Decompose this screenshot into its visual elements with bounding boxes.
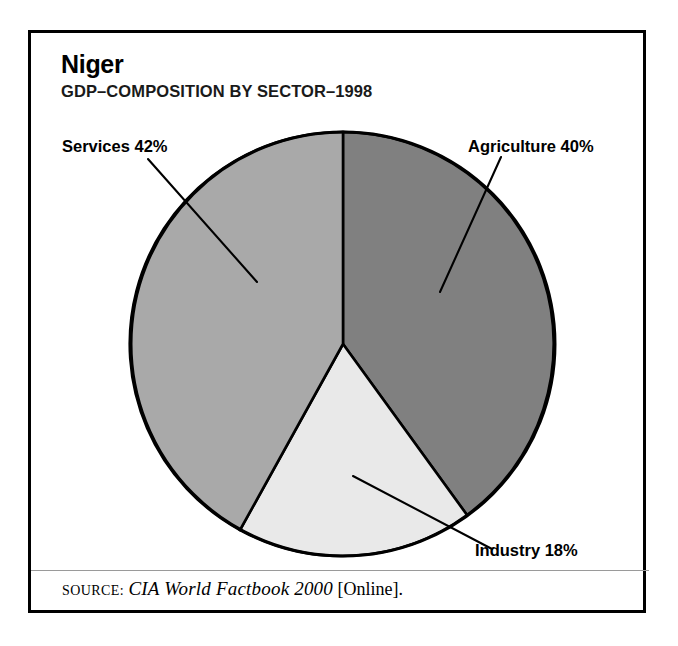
pie-label-agriculture: Agriculture 40%: [468, 137, 594, 156]
source-suffix: [Online].: [337, 579, 402, 599]
source-title: CIA World Factbook 2000: [128, 578, 333, 599]
pie-label-industry: Industry 18%: [475, 541, 578, 560]
source-divider: [31, 570, 649, 571]
source-note: SOURCE: CIA World Factbook 2000 [Online]…: [62, 578, 403, 600]
figure-frame: Niger GDP–COMPOSITION BY SECTOR–1998 Ser…: [28, 30, 646, 613]
figure-page: Niger GDP–COMPOSITION BY SECTOR–1998 Ser…: [0, 0, 678, 646]
pie-label-services: Services 42%: [62, 137, 168, 156]
pie-chart: [31, 33, 649, 616]
source-label: SOURCE:: [62, 583, 124, 598]
